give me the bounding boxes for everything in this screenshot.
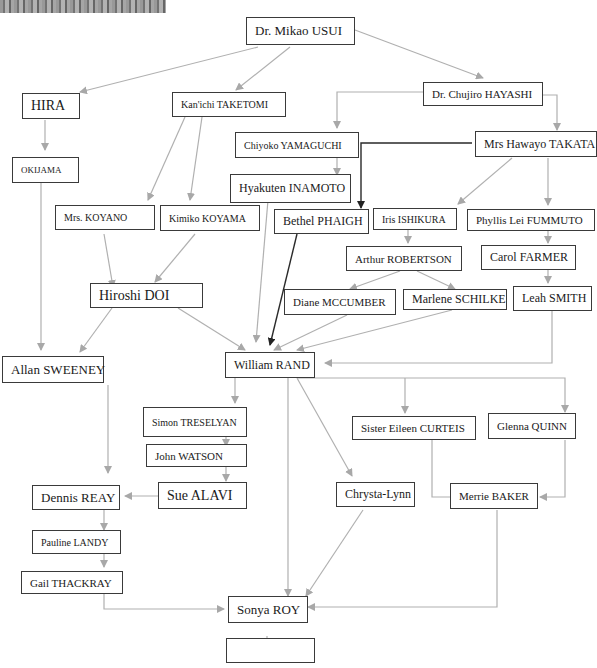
node-phaigh: Bethel PHAIGH xyxy=(274,209,369,234)
node-label: Dr. Chujiro HAYASHI xyxy=(432,88,532,100)
edge-takata-ishikura xyxy=(458,158,512,204)
edge-usui-taketomi xyxy=(236,47,290,90)
edge-quinn-baker xyxy=(540,440,565,497)
node-empty xyxy=(226,638,315,663)
edge-hayashi-takata xyxy=(543,95,557,130)
node-yamaguchi: Chiyoko YAMAGUCHI xyxy=(235,132,359,158)
node-koyano: Mrs. KOYANO xyxy=(55,205,155,230)
node-label: Leah SMITH xyxy=(522,291,586,306)
node-sweeney: Allan SWEENEY xyxy=(2,356,104,383)
node-label: Dennis REAY xyxy=(41,490,115,506)
node-label: Glenna QUINN xyxy=(497,420,567,432)
node-koyama: Kimiko KOYAMA xyxy=(160,205,260,231)
edge-thackray-roy xyxy=(104,594,224,609)
edge-rand-chrysta xyxy=(297,378,352,476)
node-label: William RAND xyxy=(234,358,310,373)
node-label: Chrysta-Lynn xyxy=(345,487,411,502)
node-hira: HIRA xyxy=(22,93,80,119)
node-watson: John WATSON xyxy=(146,444,247,467)
node-taketomi: Kan'ichi TAKETOMI xyxy=(172,92,286,117)
node-label: Sonya ROY xyxy=(237,602,300,618)
node-smith: Leah SMITH xyxy=(513,286,592,311)
node-chrysta: Chrysta-Lynn xyxy=(336,482,415,507)
node-label: Sister Eileen CURTEIS xyxy=(361,422,465,434)
edge-robertson-mccumber xyxy=(350,271,400,289)
node-fummuto: Phyllis Lei FUMMUTO xyxy=(467,209,595,231)
node-takata: Mrs Hawayo TAKATA xyxy=(475,131,597,157)
node-label: Hiroshi DOI xyxy=(99,288,169,304)
node-label: Dr. Mikao USUI xyxy=(255,23,342,39)
node-inamoto: Hyakuten INAMOTO xyxy=(230,174,351,203)
node-label: HIRA xyxy=(31,98,65,114)
node-okijama: OKIJAMA xyxy=(12,157,79,183)
node-label: Simon TRESELYAN xyxy=(152,417,237,428)
node-quinn: Glenna QUINN xyxy=(488,413,576,439)
node-doi: Hiroshi DOI xyxy=(90,283,203,308)
node-label: Iris ISHIKURA xyxy=(382,214,446,225)
node-robertson: Arthur ROBERTSON xyxy=(346,246,462,271)
node-label: Kimiko KOYAMA xyxy=(169,213,246,224)
edge-usui-hayashi xyxy=(355,30,483,78)
node-label: Gail THACKRAY xyxy=(30,577,112,589)
node-roy: Sonya ROY xyxy=(228,596,308,623)
edge-mccumber-rand xyxy=(274,315,347,350)
edge-doi-rand xyxy=(178,308,245,350)
edge-schilke-rand xyxy=(297,310,452,350)
node-treselyan: Simon TRESELYAN xyxy=(143,407,247,437)
edge-koyano-doi xyxy=(104,234,113,287)
node-label: Mrs Hawayo TAKATA xyxy=(484,137,595,152)
node-label: Chiyoko YAMAGUCHI xyxy=(244,140,342,151)
node-alavi: Sue ALAVI xyxy=(158,482,247,509)
node-baker: Merrie BAKER xyxy=(450,483,538,509)
node-mccumber: Diane MCCUMBER xyxy=(284,289,396,315)
node-ishikura: Iris ISHIKURA xyxy=(373,208,457,230)
edge-baker-roy xyxy=(308,510,497,607)
node-rand: William RAND xyxy=(225,352,315,378)
node-reay: Dennis REAY xyxy=(32,485,120,510)
node-farmer: Carol FARMER xyxy=(481,245,576,270)
node-label: Hyakuten INAMOTO xyxy=(239,181,345,196)
edge-smith-rand xyxy=(325,310,552,363)
edge-robertson-schilke xyxy=(417,271,455,289)
edge-chrysta-roy xyxy=(306,510,363,596)
node-label: Phyllis Lei FUMMUTO xyxy=(476,214,583,226)
node-label: Bethel PHAIGH xyxy=(283,214,363,229)
node-label: Pauline LANDY xyxy=(41,537,109,548)
node-label: Arthur ROBERTSON xyxy=(355,253,452,265)
node-label: Diane MCCUMBER xyxy=(293,296,386,308)
edge-koyama-doi xyxy=(155,234,195,282)
node-label: OKIJAMA xyxy=(21,165,62,175)
node-landy: Pauline LANDY xyxy=(32,530,121,554)
node-label: John WATSON xyxy=(155,450,223,462)
lineage-diagram: Dr. Mikao USUI HIRA Kan'ichi TAKETOMI Dr… xyxy=(0,0,597,668)
node-label: Marlene SCHILKE xyxy=(412,292,506,307)
edge-taketomi-koyama xyxy=(190,117,202,200)
node-label: Merrie BAKER xyxy=(459,490,529,502)
edge-hayashi-yamaguchi xyxy=(337,92,425,128)
node-curteis: Sister Eileen CURTEIS xyxy=(352,416,476,440)
node-label: Carol FARMER xyxy=(490,250,568,265)
node-label: Allan SWEENEY xyxy=(11,362,105,378)
edge-usui-hira xyxy=(80,47,258,92)
node-label: Sue ALAVI xyxy=(167,488,232,504)
node-label: Mrs. KOYANO xyxy=(64,212,127,223)
edge-takata-phaigh xyxy=(361,143,472,208)
node-thackray: Gail THACKRAY xyxy=(21,571,123,594)
node-hayashi: Dr. Chujiro HAYASHI xyxy=(423,82,543,106)
edge-taketomi-koyano xyxy=(148,117,185,200)
edge-rand-quinn xyxy=(297,378,565,412)
node-usui: Dr. Mikao USUI xyxy=(246,17,355,45)
node-label: Kan'ichi TAKETOMI xyxy=(181,99,268,110)
edge-doi-sweeney xyxy=(80,308,112,352)
node-schilke: Marlene SCHILKE xyxy=(403,289,507,310)
